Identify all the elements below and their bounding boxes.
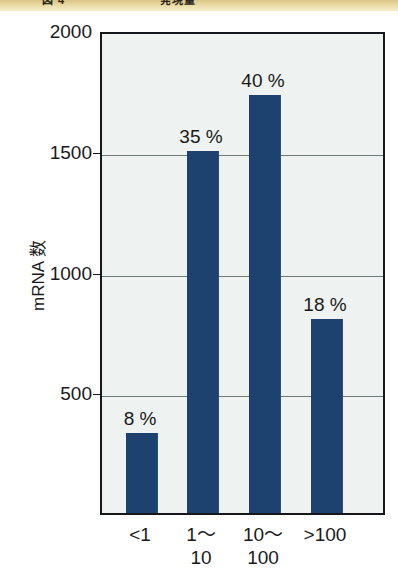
y-tick-label: 1000 [50,264,92,283]
gridline [102,155,383,156]
bar [187,151,219,513]
y-tick-mark [93,274,100,275]
banner-text-right: 発現量 [160,0,196,7]
bar-value-label: 18 % [285,295,365,314]
bar-value-label: 40 % [223,71,303,90]
banner-text-left: 図 4 [42,0,65,7]
bar-chart-figure: mRNA 数 200015001000500 8 %35 %40 %18 % <… [0,11,398,574]
x-tick-label: >100 [280,523,370,546]
y-tick-label: 2000 [50,22,92,41]
y-tick-mark [93,153,100,154]
bar [126,433,158,513]
y-tick-mark [93,394,100,395]
bar-value-label: 8 % [100,409,180,428]
y-tick-label: 1500 [50,143,92,162]
plot-area [100,32,385,515]
bar-value-label: 35 % [161,127,241,146]
page-header-banner: 図 4 発現量 [0,0,398,11]
bar [249,95,281,513]
bar [311,319,343,513]
y-tick-label: 500 [60,384,92,403]
gridline [102,276,383,277]
y-axis-title: mRNA 数 [24,216,49,336]
